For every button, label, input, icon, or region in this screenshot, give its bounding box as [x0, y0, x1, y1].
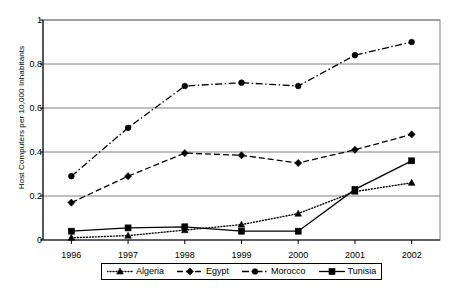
legend-swatch-circle-icon [242, 266, 268, 277]
legend-swatch-square-icon [319, 266, 345, 277]
legend-item-egypt[interactable]: Egypt [177, 266, 229, 277]
x-axis-tick-label: 2000 [288, 250, 308, 260]
x-axis-tick-group: 1996199719981999200020012002 [0, 0, 456, 292]
chart-legend: AlgeriaEgyptMoroccoTunisia [101, 263, 382, 280]
legend-label: Algeria [136, 267, 164, 276]
legend-swatch-triangle-icon [107, 266, 133, 277]
legend-label: Morocco [271, 267, 306, 276]
legend-item-morocco[interactable]: Morocco [242, 266, 306, 277]
x-axis-tick-label: 1997 [118, 250, 138, 260]
x-axis-tick-label: 1999 [231, 250, 251, 260]
x-axis-tick-label: 1998 [175, 250, 195, 260]
legend-item-tunisia[interactable]: Tunisia [319, 266, 377, 277]
legend-label: Egypt [206, 267, 229, 276]
legend-label: Tunisia [348, 267, 377, 276]
chart-container: Host Computers per 10,000 Inhabitants 00… [0, 0, 456, 292]
legend-item-algeria[interactable]: Algeria [107, 266, 164, 277]
x-axis-tick-label: 2002 [402, 250, 422, 260]
legend-swatch-diamond-icon [177, 266, 203, 277]
x-axis-tick-label: 1996 [61, 250, 81, 260]
x-axis-tick-label: 2001 [345, 250, 365, 260]
